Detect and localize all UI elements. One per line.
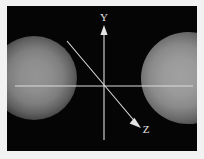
- z-axis-label: Z: [143, 123, 150, 135]
- z-axis-line: [67, 41, 137, 124]
- axes-overlay: Y Z: [7, 6, 197, 151]
- figure-frame: Y Z: [0, 0, 204, 159]
- z-axis-arrowhead: [130, 118, 141, 128]
- plot-canvas: Y Z: [7, 6, 197, 151]
- y-axis-label: Y: [100, 11, 108, 23]
- y-axis-arrowhead: [100, 25, 107, 35]
